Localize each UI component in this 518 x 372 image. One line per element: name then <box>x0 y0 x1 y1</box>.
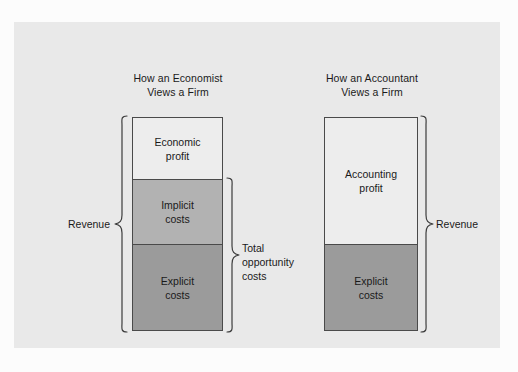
accountant-panel-title: How an Accountant Views a Firm <box>311 71 433 99</box>
segment-implicit-costs: Implicit costs <box>133 179 222 244</box>
segment-explicit-costs-accountant: Explicit costs <box>325 244 417 330</box>
accountant-stacked-bar: Accounting profit Explicit costs <box>324 117 418 331</box>
revenue-label-right: Revenue <box>436 217 506 231</box>
segment-accounting-profit: Accounting profit <box>325 118 417 244</box>
segment-explicit-costs-economist: Explicit costs <box>133 244 222 330</box>
total-opportunity-costs-label: Total opportunity costs <box>242 241 312 283</box>
segment-economic-profit: Economic profit <box>133 118 222 179</box>
figure-screenshot: How an Economist Views a Firm Economic p… <box>0 0 518 372</box>
revenue-brace-right-icon <box>420 115 434 333</box>
total-opportunity-costs-brace-icon <box>226 177 240 333</box>
economist-stacked-bar: Economic profit Implicit costs Explicit … <box>132 117 223 331</box>
figure-panel: How an Economist Views a Firm Economic p… <box>14 22 500 348</box>
economist-panel-title: How an Economist Views a Firm <box>118 71 238 99</box>
revenue-brace-left-icon <box>114 115 128 333</box>
revenue-label-left: Revenue <box>54 217 110 231</box>
